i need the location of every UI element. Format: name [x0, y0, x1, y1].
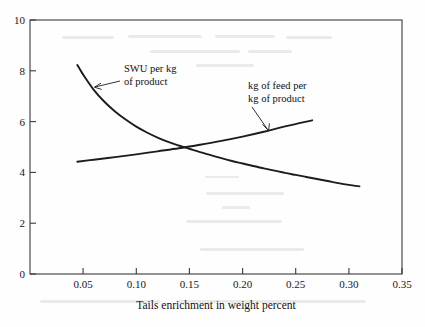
x-tick-label-030: 0.30 — [339, 278, 359, 290]
y-tick-label-8: 8 — [20, 65, 26, 77]
x-tick-label-015: 0.15 — [180, 278, 200, 290]
x-tick-label-010: 0.10 — [127, 278, 147, 290]
x-axis-title: Tails enrichment in weight percent — [136, 299, 296, 312]
y-tick-label-4: 4 — [20, 166, 26, 178]
y-tick-label-6: 6 — [20, 116, 26, 128]
x-tick-label-035: 0.35 — [392, 278, 412, 290]
feed-label-line1: kg of feed per — [248, 80, 307, 91]
x-tick-label-025: 0.25 — [286, 278, 306, 290]
swu-label-line2: of product — [124, 76, 168, 87]
figure-container: 10 8 6 4 2 0 0.05 0.10 0.15 0.20 0.25 0.… — [0, 0, 425, 327]
chart-plot: 10 8 6 4 2 0 0.05 0.10 0.15 0.20 0.25 0.… — [0, 0, 425, 327]
y-tick-label-2: 2 — [20, 217, 26, 229]
x-tick-label-020: 0.20 — [233, 278, 253, 290]
feed-label-line2: kg of product — [248, 93, 305, 104]
chart-background — [0, 0, 425, 327]
y-tick-label-0: 0 — [20, 268, 26, 280]
swu-label-line1: SWU per kg — [124, 63, 177, 74]
y-tick-label-10: 10 — [14, 14, 26, 26]
x-tick-label-005: 0.05 — [73, 278, 93, 290]
